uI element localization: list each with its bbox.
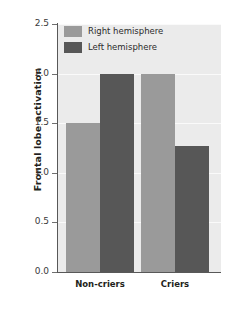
legend-label-right: Right hemisphere [88, 27, 163, 36]
plot-area: Right hemisphere Left hemisphere [58, 24, 221, 272]
x-axis-line [57, 272, 221, 273]
legend-label-left: Left hemisphere [88, 43, 157, 52]
y-axis-tick-label: 0.5 [27, 217, 49, 226]
x-axis-category-label: Criers [161, 279, 189, 289]
y-axis-tick-label: 2.5 [27, 19, 49, 28]
gridline [58, 24, 221, 25]
y-axis-tick-label: 0.0 [27, 267, 49, 276]
legend-item-right-hemisphere: Right hemisphere [64, 26, 163, 37]
bar [141, 74, 175, 272]
bar [175, 146, 209, 272]
x-axis-category-label: Non-criers [75, 279, 125, 289]
y-axis-tick-label: 2.0 [27, 69, 49, 78]
bar [100, 74, 134, 272]
legend-swatch-icon-right [64, 26, 82, 37]
legend: Right hemisphere Left hemisphere [64, 26, 163, 53]
y-axis-tick-label: 1.5 [27, 118, 49, 127]
gridline [58, 74, 221, 75]
y-axis-tick-labels: 0.00.51.01.52.02.5 [26, 0, 49, 311]
bar [66, 123, 100, 272]
legend-item-left-hemisphere: Left hemisphere [64, 42, 163, 53]
legend-swatch-icon-left [64, 42, 82, 53]
bar-chart: Frontal lobe activation 0.00.51.01.52.02… [0, 0, 225, 311]
y-axis-tick-label: 1.0 [27, 168, 49, 177]
